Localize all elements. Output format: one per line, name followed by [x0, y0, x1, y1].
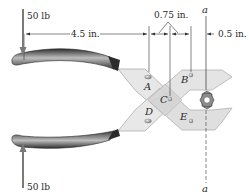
pin-b: [189, 73, 193, 77]
jaw-assembly: [118, 69, 232, 131]
point-label-b: B: [180, 74, 188, 85]
section-label-bottom: a: [202, 183, 208, 194]
dimension-label-jaw-offset: 0.5 in.: [218, 29, 247, 39]
pliers-diagram: A B C D E 50 lb 5: [0, 0, 249, 196]
upper-handle: [12, 49, 114, 69]
force-label-top: 50 lb: [27, 11, 50, 21]
point-label-a: A: [143, 81, 151, 92]
pin-a: [145, 75, 152, 79]
point-label-d: D: [144, 106, 153, 117]
section-label-top: a: [202, 4, 208, 15]
force-arrow-top: [20, 9, 27, 56]
dimension-label-pin-spacing: 0.75 in.: [154, 10, 189, 20]
pin-c: [168, 97, 172, 101]
force-arrow-bottom: [20, 143, 27, 188]
force-label-bottom: 50 lb: [27, 182, 50, 192]
hex-nut: [200, 91, 214, 109]
point-label-e: E: [179, 111, 188, 122]
pin-d: [145, 119, 152, 123]
point-label-c: C: [160, 94, 168, 105]
pin-e: [189, 119, 193, 123]
dimension-label-handle: 4.5 in.: [71, 29, 100, 39]
lower-handle: [12, 131, 114, 148]
